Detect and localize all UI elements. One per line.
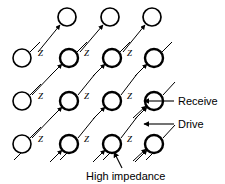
node-circle[interactable] bbox=[143, 8, 161, 26]
node-circle[interactable] bbox=[13, 92, 31, 110]
impedance-label-z: Z bbox=[127, 48, 133, 58]
link-arrow bbox=[133, 149, 146, 161]
callout-leader-line bbox=[114, 152, 122, 168]
node-circle[interactable] bbox=[60, 49, 78, 67]
impedance-label-z: Z bbox=[84, 134, 90, 144]
node-circle[interactable] bbox=[145, 135, 163, 153]
impedance-label-z: Z bbox=[127, 91, 133, 101]
link-diagonal bbox=[163, 125, 175, 138]
link-arrow bbox=[93, 150, 105, 162]
impedance-label-z: Z bbox=[84, 48, 90, 58]
node-circle[interactable] bbox=[13, 135, 31, 153]
impedance-label-z: Z bbox=[38, 48, 44, 58]
callout-label-drive: Drive bbox=[178, 118, 204, 130]
link-diagonal bbox=[163, 82, 175, 95]
impedance-label-z: Z bbox=[38, 91, 44, 101]
node-circle[interactable] bbox=[60, 92, 78, 110]
node-circle[interactable] bbox=[101, 8, 119, 26]
node-circle[interactable] bbox=[103, 92, 121, 110]
impedance-label-z: Z bbox=[38, 134, 44, 144]
node-circle[interactable] bbox=[103, 49, 121, 67]
figure-canvas: Z Z Z Z Z Z Z Z Z Receive Drive High imp… bbox=[0, 0, 225, 184]
link-diagonal bbox=[162, 42, 172, 52]
link-arrow bbox=[135, 150, 147, 162]
node-circle[interactable] bbox=[13, 49, 31, 67]
impedance-label-z: Z bbox=[127, 134, 133, 144]
node-circle[interactable] bbox=[58, 8, 76, 26]
link-arrow bbox=[133, 106, 146, 118]
link-arrow bbox=[50, 150, 62, 162]
callout-label-high-impedance: High impedance bbox=[86, 170, 166, 182]
bottom-stubs-group bbox=[14, 152, 154, 160]
callout-drive: Drive bbox=[144, 118, 204, 130]
impedance-label-z: Z bbox=[84, 91, 90, 101]
impedance-grid-diagram: Z Z Z Z Z Z Z Z Z Receive Drive High imp… bbox=[0, 0, 225, 184]
node-circle[interactable] bbox=[103, 135, 121, 153]
node-circle[interactable] bbox=[145, 49, 163, 67]
callout-label-receive: Receive bbox=[178, 95, 218, 107]
node-circle[interactable] bbox=[60, 135, 78, 153]
